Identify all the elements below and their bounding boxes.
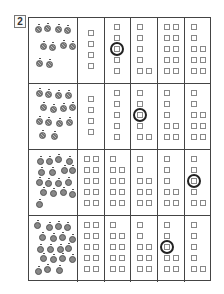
answer-circle	[133, 108, 147, 122]
count-square	[93, 244, 99, 250]
count-square	[164, 178, 170, 184]
count-square	[119, 244, 125, 250]
count-square	[84, 189, 90, 195]
count-square	[164, 123, 170, 129]
count-option-2[interactable]	[104, 150, 131, 215]
count-square	[110, 178, 116, 184]
counting-worksheet-grid	[28, 17, 211, 281]
apple-icon	[40, 189, 47, 196]
count-option-1[interactable]	[78, 216, 105, 282]
count-square	[110, 255, 116, 261]
count-square	[88, 107, 94, 113]
count-square	[93, 222, 99, 228]
count-square	[137, 156, 143, 162]
count-option-1[interactable]	[78, 150, 105, 215]
melon-icon	[46, 61, 53, 68]
apple-icon	[69, 236, 76, 243]
count-square	[114, 90, 120, 96]
count-square	[137, 266, 143, 272]
count-option-5[interactable]	[185, 18, 212, 83]
count-option-2[interactable]	[104, 84, 131, 149]
count-square	[191, 57, 197, 63]
count-square	[84, 255, 90, 261]
count-option-3[interactable]	[131, 18, 158, 83]
count-square	[119, 178, 125, 184]
count-square	[164, 90, 170, 96]
count-square	[191, 123, 197, 129]
count-option-5[interactable]	[185, 84, 212, 149]
count-square	[200, 266, 206, 272]
count-square	[191, 156, 197, 162]
apple-icon	[50, 190, 57, 197]
count-square	[191, 200, 197, 206]
count-square	[137, 244, 143, 250]
count-square	[146, 134, 152, 140]
melon-icon	[40, 43, 47, 50]
count-square	[200, 68, 206, 74]
count-square	[191, 134, 197, 140]
count-square	[164, 255, 170, 261]
count-square	[84, 233, 90, 239]
count-square	[191, 24, 197, 30]
count-option-5[interactable]	[185, 216, 212, 282]
count-option-3[interactable]	[131, 216, 158, 282]
count-square	[88, 96, 94, 102]
count-square	[164, 156, 170, 162]
apple-icon	[55, 156, 62, 163]
apple-icon	[50, 235, 57, 242]
count-square	[200, 123, 206, 129]
count-option-1[interactable]	[78, 18, 105, 83]
count-square	[137, 200, 143, 206]
count-square	[191, 167, 197, 173]
count-square	[88, 41, 94, 47]
count-square	[164, 222, 170, 228]
melon-icon	[50, 106, 57, 113]
worksheet-row	[29, 84, 210, 150]
count-square	[173, 46, 179, 52]
count-option-2[interactable]	[104, 216, 131, 282]
count-square	[191, 233, 197, 239]
apple-icon	[59, 255, 66, 262]
count-option-4[interactable]	[158, 84, 185, 149]
melon-icon	[55, 26, 62, 33]
count-square	[88, 129, 94, 135]
count-option-4[interactable]	[158, 216, 185, 282]
count-square	[137, 189, 143, 195]
count-option-3[interactable]	[131, 84, 158, 149]
count-square	[137, 167, 143, 173]
worksheet-row	[29, 18, 210, 84]
count-square	[114, 134, 120, 140]
fruit-picture-box	[29, 18, 78, 83]
apple-icon	[44, 266, 51, 273]
count-option-4[interactable]	[158, 18, 185, 83]
count-option-3[interactable]	[131, 150, 158, 215]
count-square	[137, 46, 143, 52]
apple-icon	[38, 169, 45, 176]
worksheet-row	[29, 150, 210, 216]
melon-icon	[51, 133, 58, 140]
count-option-5[interactable]	[185, 150, 212, 215]
count-square	[84, 266, 90, 272]
melon-icon	[39, 132, 46, 139]
count-square	[114, 57, 120, 63]
answer-circle	[110, 42, 124, 56]
count-option-1[interactable]	[78, 84, 105, 149]
apple-icon	[34, 222, 41, 229]
melon-icon	[40, 104, 47, 111]
count-option-2[interactable]	[104, 18, 131, 83]
count-square	[110, 266, 116, 272]
fruit-picture-box	[29, 84, 78, 149]
count-square	[173, 24, 179, 30]
count-square	[110, 233, 116, 239]
count-option-4[interactable]	[158, 150, 185, 215]
apple-icon	[57, 246, 64, 253]
count-square	[146, 244, 152, 250]
count-square	[119, 200, 125, 206]
apple-icon	[36, 201, 43, 208]
count-square	[137, 24, 143, 30]
count-square	[88, 63, 94, 69]
count-square	[173, 123, 179, 129]
count-square	[137, 57, 143, 63]
count-square	[146, 68, 152, 74]
count-square	[137, 101, 143, 107]
